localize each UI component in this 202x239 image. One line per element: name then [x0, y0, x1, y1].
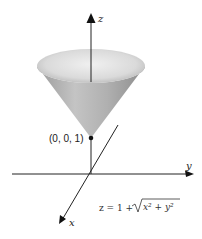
equation-radicand: x² + y² — [143, 202, 174, 212]
equation: z = 1 + x² + y² — [99, 199, 180, 213]
x-axis-label: x — [69, 217, 75, 228]
z-axis-arrow-icon — [87, 13, 96, 23]
cone-diagram: z y x (0, 0, 1) z = 1 + x² + y² — [0, 0, 202, 239]
equation-lhs: z = 1 + — [99, 203, 133, 213]
point-label: (0, 0, 1) — [49, 133, 83, 144]
x-axis-arrow-icon — [59, 215, 66, 224]
z-axis-label: z — [97, 13, 104, 24]
y-axis-label: y — [185, 160, 192, 171]
apex-point — [89, 136, 94, 141]
y-axis-arrow-icon — [185, 171, 194, 178]
y-axis — [12, 171, 194, 178]
